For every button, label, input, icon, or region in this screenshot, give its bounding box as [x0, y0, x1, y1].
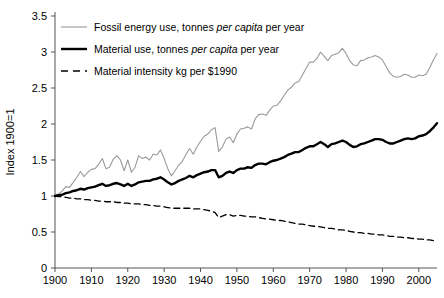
chart-legend: Fossil energy use, tonnes per capita per…	[61, 21, 305, 77]
x-axis-ticks: 1900191019201930194019501960197019801990…	[43, 268, 431, 286]
x-tick-label: 1940	[188, 274, 212, 286]
data-series-group	[55, 48, 437, 241]
y-tick-label: 0	[41, 262, 47, 274]
y-tick-label: 0.5	[32, 226, 47, 238]
x-tick-label: 2000	[407, 274, 431, 286]
y-axis-ticks: 00.511.522.533.5	[32, 10, 55, 274]
y-tick-label: 3.5	[32, 10, 47, 22]
y-tick-label: 2.5	[32, 82, 47, 94]
x-tick-label: 1910	[79, 274, 103, 286]
y-axis-title: Index 1900=1	[4, 109, 16, 176]
legend-label-material-intensity: Material intensity kg per $1990	[94, 65, 237, 77]
y-tick-label: 2	[41, 118, 47, 130]
y-tick-label: 1	[41, 190, 47, 202]
line-chart: 00.511.522.533.5 19001910192019301940195…	[0, 0, 444, 298]
x-tick-label: 1970	[297, 274, 321, 286]
y-tick-label: 1.5	[32, 154, 47, 166]
x-tick-label: 1960	[261, 274, 285, 286]
chart-figure: 00.511.522.533.5 19001910192019301940195…	[0, 0, 444, 298]
legend-label-material-use: Material use, tonnes per capita per year	[94, 43, 280, 55]
x-tick-label: 1980	[334, 274, 358, 286]
x-tick-label: 1950	[225, 274, 249, 286]
x-tick-label: 1920	[116, 274, 140, 286]
series-line-material-intensity	[55, 196, 437, 241]
legend-label-fossil-energy-use: Fossil energy use, tonnes per capita per…	[94, 21, 305, 33]
series-line-material-use	[55, 123, 437, 196]
x-tick-label: 1990	[370, 274, 394, 286]
x-tick-label: 1900	[43, 274, 67, 286]
x-tick-label: 1930	[152, 274, 176, 286]
y-tick-label: 3	[41, 46, 47, 58]
